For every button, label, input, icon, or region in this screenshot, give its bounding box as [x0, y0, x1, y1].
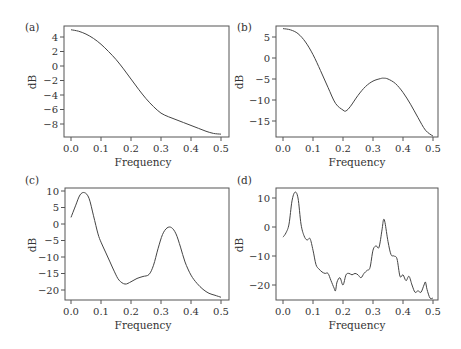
plot-area-frame	[65, 188, 229, 300]
spectrum-line	[71, 192, 221, 297]
y-tick-label: −5	[255, 74, 270, 85]
panel-c: 1050−5−10−15−200.00.10.20.30.40.5Frequen…	[25, 174, 229, 331]
x-tick-label: 0.4	[183, 306, 199, 317]
x-tick-label: 0.5	[425, 143, 441, 154]
panel-b: 50−5−10−150.00.10.20.30.40.5FrequencydB(…	[233, 21, 441, 168]
x-tick-label: 0.2	[123, 306, 139, 317]
y-tick-label: 2	[52, 46, 58, 57]
x-tick-label: 0.0	[63, 306, 79, 317]
panel-label: (a)	[25, 21, 39, 33]
y-tick-label: −10	[38, 252, 59, 263]
x-tick-label: 0.2	[335, 306, 351, 317]
x-tick-label: 0.5	[213, 306, 229, 317]
x-axis-title: Frequency	[115, 156, 172, 168]
panel-label: (c)	[25, 174, 39, 186]
x-axis-title: Frequency	[115, 319, 172, 331]
y-tick-label: −15	[38, 268, 59, 279]
spectrum-line	[71, 30, 221, 134]
x-tick-label: 0.1	[305, 143, 321, 154]
x-tick-label: 0.4	[183, 143, 199, 154]
plot-area-frame	[64, 26, 229, 137]
y-tick-label: −20	[249, 280, 270, 291]
y-axis-title: dB	[26, 237, 38, 252]
y-tick-label: −10	[249, 95, 270, 106]
plot-area-frame	[276, 188, 438, 300]
x-tick-label: 0.5	[425, 306, 441, 317]
y-tick-label: −8	[43, 119, 58, 130]
x-tick-label: 0.3	[153, 143, 169, 154]
y-tick-label: 10	[46, 186, 59, 197]
y-tick-label: −2	[43, 75, 58, 86]
y-tick-label: −20	[38, 285, 59, 296]
x-tick-label: 0.2	[335, 143, 351, 154]
x-tick-label: 0.2	[123, 143, 139, 154]
x-tick-label: 0.1	[305, 306, 321, 317]
y-tick-label: −5	[44, 235, 59, 246]
x-tick-label: 0.3	[153, 306, 169, 317]
y-axis-title: dB	[26, 74, 38, 89]
y-tick-label: 0	[52, 61, 58, 72]
plot-area-frame	[276, 26, 438, 137]
y-tick-label: 0	[53, 219, 59, 230]
x-tick-label: 0.1	[93, 306, 109, 317]
x-tick-label: 0.3	[365, 143, 381, 154]
x-tick-label: 0.0	[275, 306, 291, 317]
panel-d: 100−10−200.00.10.20.30.40.5FrequencydB(d…	[233, 174, 441, 331]
y-tick-label: −6	[43, 104, 58, 115]
y-tick-label: 10	[257, 193, 270, 204]
x-tick-label: 0.0	[63, 143, 79, 154]
panel-a: 420−2−4−6−80.00.10.20.30.40.5FrequencydB…	[25, 21, 229, 168]
x-tick-label: 0.5	[213, 143, 229, 154]
figure-four-panel-spectra: 420−2−4−6−80.00.10.20.30.40.5FrequencydB…	[0, 0, 461, 349]
spectrum-line	[283, 192, 433, 299]
panel-label: (d)	[237, 174, 252, 186]
x-axis-title: Frequency	[329, 319, 386, 331]
y-axis-title: dB	[233, 74, 245, 89]
x-axis-title: Frequency	[329, 156, 386, 168]
x-tick-label: 0.1	[93, 143, 109, 154]
x-tick-label: 0.4	[395, 143, 411, 154]
y-axis-title: dB	[233, 237, 245, 252]
y-tick-label: −15	[249, 116, 270, 127]
y-tick-label: 0	[264, 53, 270, 64]
y-tick-label: 5	[53, 202, 59, 213]
spectrum-line	[283, 29, 433, 137]
y-tick-label: −4	[43, 90, 58, 101]
x-tick-label: 0.3	[365, 306, 381, 317]
y-tick-label: 0	[264, 222, 270, 233]
x-tick-label: 0.4	[395, 306, 411, 317]
panel-label: (b)	[237, 21, 252, 33]
y-tick-label: 4	[52, 32, 58, 43]
y-tick-label: −10	[249, 251, 270, 262]
y-tick-label: 5	[264, 32, 270, 43]
x-tick-label: 0.0	[275, 143, 291, 154]
